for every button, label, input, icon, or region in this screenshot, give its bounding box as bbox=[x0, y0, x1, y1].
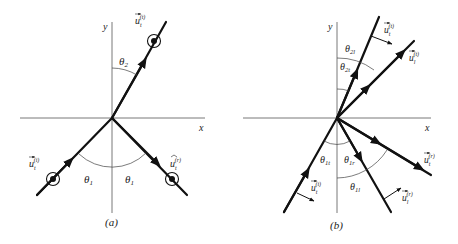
x-axis-label: x bbox=[424, 122, 430, 133]
u-t-transmitted-label: ut(t) bbox=[384, 23, 394, 37]
transmitted-transverse-arrow-icon bbox=[337, 73, 356, 118]
theta-2l-label: θ2l bbox=[345, 43, 355, 55]
theta-1-right-label: θ1 bbox=[125, 173, 134, 187]
u-t-incident-label: ut(i) bbox=[311, 181, 321, 195]
theta-2-arc bbox=[112, 68, 137, 75]
transmitted-longitudinal-arrow-icon bbox=[337, 88, 367, 118]
panel-b-caption: (b) bbox=[330, 219, 343, 232]
polarization-vector-icon bbox=[384, 188, 401, 199]
polarization-vector-icon bbox=[297, 193, 314, 201]
polarization-dot-icon bbox=[50, 176, 56, 182]
theta-2t-label: θ2t bbox=[340, 61, 350, 73]
theta-1t-label: θ1t bbox=[320, 154, 330, 166]
u-l-transmitted-label: ul(t) bbox=[409, 51, 419, 65]
y-axis-label: y bbox=[102, 21, 108, 32]
theta-1l-label: θ1l bbox=[350, 181, 360, 193]
theta-1-arc bbox=[79, 153, 146, 167]
incident-arrow-icon bbox=[284, 172, 307, 212]
u-l-reflected-label: ul(r) bbox=[402, 191, 413, 205]
u-transmitted-label: ut(t) bbox=[135, 14, 145, 28]
reflected-ray-arrow-icon bbox=[112, 118, 157, 163]
wave-reflection-diagram: x y θ2 θ1 θ1 ut(t) ut(i) bbox=[0, 0, 458, 244]
y-axis-label: y bbox=[327, 21, 333, 32]
polarization-dot-icon bbox=[169, 176, 175, 182]
u-incident-label: ut(i) bbox=[29, 157, 39, 171]
panel-b: x y θ2l θ2t θ1t θ1r θ1l bbox=[243, 17, 435, 232]
u-reflected-label: ut(r) bbox=[170, 157, 181, 171]
theta-2-label: θ2 bbox=[119, 55, 128, 69]
transmitted-ray-arrow-icon bbox=[112, 62, 144, 118]
u-t-reflected-label: ut(r) bbox=[424, 153, 435, 167]
panel-a: x y θ2 θ1 θ1 ut(t) ut(i) bbox=[20, 14, 205, 229]
theta-1-left-label: θ1 bbox=[84, 173, 93, 187]
x-axis-label: x bbox=[198, 122, 204, 133]
panel-a-caption: (a) bbox=[105, 216, 118, 229]
polarization-vector-icon bbox=[371, 36, 392, 44]
theta-1r-label: θ1r bbox=[344, 154, 355, 166]
polarization-dot-icon bbox=[151, 38, 157, 44]
transmitted-longitudinal-arrow2-icon bbox=[367, 53, 402, 88]
theta-2t-arc bbox=[337, 89, 349, 91]
